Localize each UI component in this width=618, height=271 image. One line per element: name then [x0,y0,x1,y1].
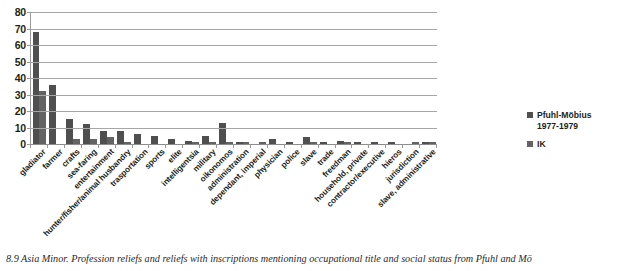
bar [39,91,46,144]
plot-area [30,12,437,144]
bar [100,131,107,144]
y-tickmark-30 [27,95,31,96]
bar [117,131,124,144]
y-tickmark-80 [27,12,31,13]
bar-chart: 01020304050607080 gladiatorfarmercraftss… [0,0,520,156]
y-tick-label-40: 40 [15,73,26,84]
gridline-40 [31,78,437,79]
y-tickmark-60 [27,45,31,46]
y-tick-label-80: 80 [15,7,26,18]
gridline-60 [31,45,437,46]
series1-swatch [527,112,533,118]
x-tickmark [436,144,437,148]
x-axis-label: slave [299,148,319,168]
figure-container: 01020304050607080 gladiatorfarmercraftss… [0,0,618,271]
x-axis-labels: gladiatorfarmercraftssea-faringentertain… [30,148,436,248]
gridline-80 [31,12,437,13]
chart-legend: Pfuhl-Möbius 1977-1979 IK [527,110,618,158]
y-tick-label-60: 60 [15,40,26,51]
y-tick-label-10: 10 [15,122,26,133]
y-tick-label-30: 30 [15,89,26,100]
bar [202,136,209,144]
bar [107,137,114,144]
caption-number: 8.9 [6,253,19,264]
y-tick-label-0: 0 [20,139,26,150]
y-tickmark-70 [27,29,31,30]
bar [219,123,226,144]
y-axis: 01020304050607080 [0,12,26,144]
legend-item-series1: Pfuhl-Möbius 1977-1979 [527,110,618,132]
y-tick-label-50: 50 [15,56,26,67]
series2-swatch [527,141,533,147]
gridline-70 [31,29,437,30]
y-tickmark-10 [27,128,31,129]
legend-label-series2: IK [537,139,546,150]
bar [66,119,73,144]
legend-label-series1: Pfuhl-Möbius 1977-1979 [537,110,591,132]
caption-text: Asia Minor. Profession reliefs and relie… [21,253,532,264]
bar [303,137,310,144]
y-tickmark-20 [27,111,31,112]
figure-caption: 8.9 Asia Minor. Profession reliefs and r… [6,253,618,265]
legend-item-series2: IK [527,139,618,150]
y-tickmark-40 [27,78,31,79]
bar [151,136,158,144]
gridline-20 [31,111,437,112]
gridline-10 [31,128,437,129]
gridline-50 [31,62,437,63]
y-tick-label-20: 20 [15,106,26,117]
bar [134,134,141,144]
y-tick-label-70: 70 [15,23,26,34]
gridline-30 [31,95,437,96]
y-tickmark-50 [27,62,31,63]
